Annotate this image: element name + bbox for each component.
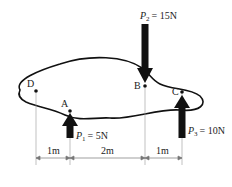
svg-text:C: C bbox=[172, 86, 179, 97]
point-d: D bbox=[27, 78, 38, 93]
dimension-label-da: 1m bbox=[47, 145, 60, 156]
dimension-label-ab: 2m bbox=[101, 145, 114, 156]
rigid-body-diagram: 1m 2m 1m D A B C P2= 15N P1= 5N P3= 10N bbox=[0, 0, 232, 187]
force-label-p1: P1= 5N bbox=[75, 130, 108, 143]
point-a: A bbox=[61, 98, 72, 113]
force-arrow-p2 bbox=[137, 24, 153, 83]
svg-text:A: A bbox=[61, 98, 69, 109]
svg-text:B: B bbox=[134, 80, 141, 91]
svg-text:D: D bbox=[27, 78, 34, 89]
force-label-p3: P3= 10N bbox=[187, 125, 225, 138]
dimension-label-bc: 1m bbox=[156, 145, 169, 156]
force-label-p2: P2= 15N bbox=[139, 10, 177, 23]
dimension-line bbox=[36, 156, 182, 160]
